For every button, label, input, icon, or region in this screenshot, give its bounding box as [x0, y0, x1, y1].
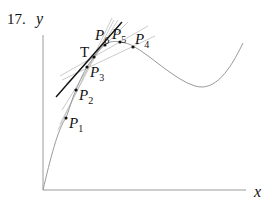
label-p3: P3	[89, 64, 104, 83]
y-axis-label: y	[34, 10, 44, 28]
problem-number: 17.	[7, 11, 26, 27]
tangent-point-label: T	[80, 44, 89, 60]
label-p2: P2	[78, 87, 93, 106]
point-t	[92, 55, 95, 58]
x-axis-label: x	[253, 183, 261, 197]
point-p3	[85, 65, 88, 68]
label-p4: P4	[134, 31, 149, 50]
point-p1	[64, 116, 67, 119]
point-p2	[74, 88, 77, 91]
tangent-diagram: 17. y x T P1 P2 P3 P4 P5 P6	[0, 0, 274, 197]
label-p1: P1	[68, 115, 83, 134]
